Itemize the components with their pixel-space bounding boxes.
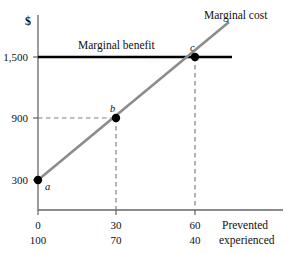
x-axis-title-experienced: experienced bbox=[219, 235, 275, 247]
y-tick-label-1500: 1,500 bbox=[0, 52, 28, 63]
x-axis-title-prevented: Prevented bbox=[222, 220, 268, 232]
data-point-b bbox=[112, 114, 120, 122]
point-label-c: c bbox=[190, 43, 195, 54]
x-tick-label-40-experienced: 40 bbox=[175, 235, 215, 246]
marginal-cost-label: Marginal cost bbox=[204, 10, 267, 22]
marginal-benefit-label: Marginal benefit bbox=[78, 40, 155, 52]
x-tick-label-60-prevented: 60 bbox=[175, 220, 215, 231]
data-point-a bbox=[34, 176, 42, 184]
x-tick-label-100-experienced: 100 bbox=[18, 235, 58, 246]
chart-plot-area bbox=[0, 0, 289, 253]
x-tick-label-70-experienced: 70 bbox=[96, 235, 136, 246]
y-tick-label-900: 900 bbox=[0, 113, 28, 124]
y-tick-label-300: 300 bbox=[0, 175, 28, 186]
y-axis-currency-label: $ bbox=[25, 15, 31, 27]
x-tick-label-0-prevented: 0 bbox=[18, 220, 58, 231]
point-label-b: b bbox=[110, 104, 115, 115]
point-label-a: a bbox=[45, 182, 50, 193]
data-point-c bbox=[191, 53, 199, 61]
economics-marginal-cost-benefit-chart: $ 1,500 900 300 0 30 60 100 70 40 Margin… bbox=[0, 0, 289, 253]
x-tick-label-30-prevented: 30 bbox=[96, 220, 136, 231]
